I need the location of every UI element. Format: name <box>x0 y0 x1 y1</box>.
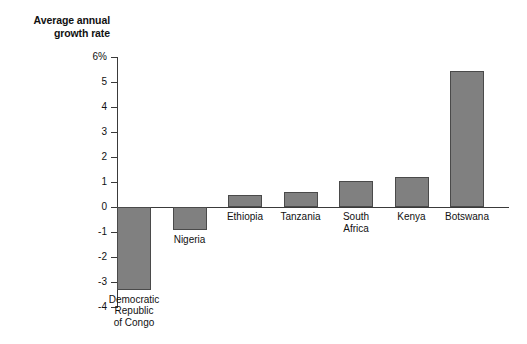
y-axis-tick-label: 0 <box>65 202 107 212</box>
y-axis-tick-label: 4 <box>65 102 107 112</box>
y-axis-tick-mark <box>111 57 117 58</box>
bar-chart: Average annual growth rate 6%543210-1-2-… <box>0 0 527 344</box>
y-axis-tick-label: 3 <box>65 127 107 137</box>
axis-title-line-1: Average annual <box>6 14 110 27</box>
y-axis-tick-label: 2 <box>65 152 107 162</box>
y-axis-tick-label: -2 <box>65 252 107 262</box>
category-label: Botswana <box>430 211 504 223</box>
y-axis-tick-mark <box>111 107 117 108</box>
y-axis-tick-mark <box>111 182 117 183</box>
category-label: Democratic Republic of Congo <box>97 294 171 329</box>
bar <box>450 71 484 207</box>
bar <box>228 195 262 208</box>
chart-axis-title: Average annual growth rate <box>6 14 110 39</box>
bar <box>339 181 373 207</box>
bar <box>395 177 429 207</box>
bar <box>173 207 207 230</box>
y-axis-tick-label: -3 <box>65 277 107 287</box>
category-label: Nigeria <box>153 234 227 246</box>
bar <box>117 207 151 290</box>
y-axis-tick-mark <box>111 82 117 83</box>
axis-title-line-2: growth rate <box>6 27 110 40</box>
y-axis-tick-label: -1 <box>65 227 107 237</box>
bar <box>284 192 318 207</box>
y-axis-tick-mark <box>111 132 117 133</box>
y-axis-tick-label: 6% <box>65 52 107 62</box>
y-axis-tick-label: 1 <box>65 177 107 187</box>
y-axis-tick-mark <box>111 157 117 158</box>
y-axis-tick-label: 5 <box>65 77 107 87</box>
